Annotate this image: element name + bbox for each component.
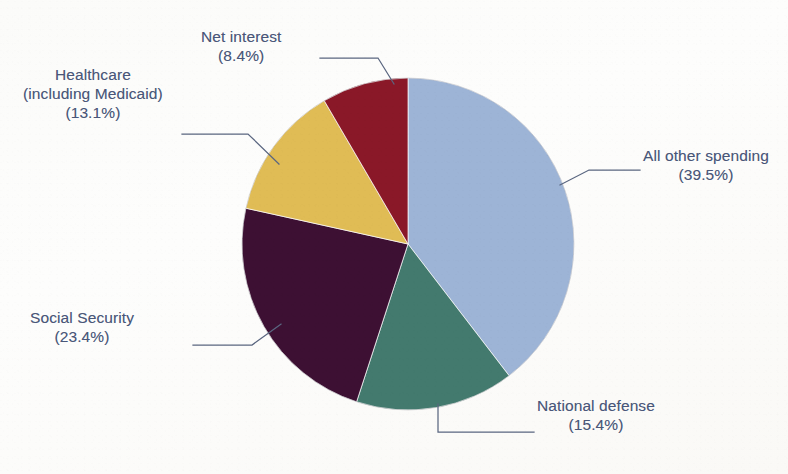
pie-label-national-defense-name: National defense bbox=[537, 396, 655, 415]
pie-label-all-other-spending-value: (39.5%) bbox=[643, 165, 769, 184]
pie-label-healthcare-subname: (including Medicaid) bbox=[23, 84, 163, 103]
pie-label-all-other-spending: All other spending (39.5%) bbox=[643, 146, 769, 184]
pie-label-social-security: Social Security (23.4%) bbox=[30, 308, 134, 346]
pie-chart-figure: Net interest (8.4%) Healthcare (includin… bbox=[0, 0, 788, 474]
pie-slices-group bbox=[242, 78, 574, 410]
pie-label-net-interest-name: Net interest bbox=[201, 27, 281, 46]
leader-line-national-defense bbox=[438, 404, 534, 432]
pie-label-net-interest-value: (8.4%) bbox=[201, 46, 281, 65]
pie-label-healthcare-name: Healthcare bbox=[23, 65, 163, 84]
pie-label-social-security-value: (23.4%) bbox=[30, 327, 134, 346]
pie-label-national-defense-value: (15.4%) bbox=[537, 415, 655, 434]
pie-label-healthcare: Healthcare (including Medicaid) (13.1%) bbox=[23, 65, 163, 122]
pie-label-all-other-spending-name: All other spending bbox=[643, 146, 769, 165]
pie-label-healthcare-value: (13.1%) bbox=[23, 103, 163, 122]
pie-label-national-defense: National defense (15.4%) bbox=[537, 396, 655, 434]
leader-line-all-other-spending bbox=[560, 170, 640, 185]
pie-label-social-security-name: Social Security bbox=[30, 308, 134, 327]
leader-line-healthcare bbox=[182, 134, 279, 164]
pie-label-net-interest: Net interest (8.4%) bbox=[201, 27, 281, 65]
